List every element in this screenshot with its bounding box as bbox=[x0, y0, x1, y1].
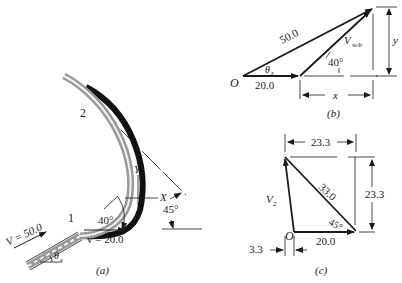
dim-x-label: x bbox=[332, 89, 338, 101]
vector-v2 bbox=[285, 159, 294, 232]
right-dim-c: 23.3 bbox=[365, 188, 385, 200]
dim-y-label: y bbox=[392, 34, 398, 46]
inlet-velocity-label: V = 50.0 bbox=[4, 220, 45, 247]
theta-s-sub: s bbox=[60, 256, 63, 264]
theta-label-b: θ bbox=[265, 64, 270, 75]
angle-45-label: 45° bbox=[163, 203, 178, 215]
angle-45-c: 45° bbox=[327, 216, 345, 233]
point-1-label: 1 bbox=[68, 211, 74, 225]
figure-b: O 50.0 20.0 θ s V w/b 40° y x (b) bbox=[230, 7, 398, 120]
theta-s-label: θ bbox=[54, 250, 59, 261]
point-2-label: 2 bbox=[80, 106, 86, 120]
v2-sub: 2 bbox=[273, 200, 277, 208]
figure-a: 1 2 V = 50.0 v = 20.0 40° θ s Y X 45° (a… bbox=[4, 76, 202, 277]
x-axis-label: X bbox=[159, 191, 168, 203]
vector-33 bbox=[285, 157, 356, 231]
caption-c: (c) bbox=[315, 264, 328, 277]
top-dim-c: 23.3 bbox=[311, 136, 331, 148]
caption-b: (b) bbox=[327, 107, 340, 120]
origin-label-c: O bbox=[285, 229, 294, 243]
hyp-label-c: 33.0 bbox=[317, 181, 340, 203]
rel-sub-b: w/b bbox=[352, 41, 363, 49]
figure-c: 23.3 23.3 33.0 45° V 2 O 20.0 3.3 (c) bbox=[249, 134, 385, 277]
angle-40-label: 40° bbox=[98, 214, 113, 226]
caption-a: (a) bbox=[96, 264, 109, 277]
base-label-c: 20.0 bbox=[316, 235, 336, 247]
hyp-label-b: 50.0 bbox=[277, 26, 300, 46]
origin-label-b: O bbox=[230, 76, 239, 90]
angle-40-b: 40° bbox=[328, 56, 343, 68]
offset-dim-c: 3.3 bbox=[249, 243, 263, 255]
theta-sub-b: s bbox=[271, 69, 274, 77]
rel-label-b: V bbox=[344, 34, 352, 46]
base-label-b: 20.0 bbox=[255, 79, 275, 91]
blade-velocity-label: v = 20.0 bbox=[87, 233, 124, 245]
